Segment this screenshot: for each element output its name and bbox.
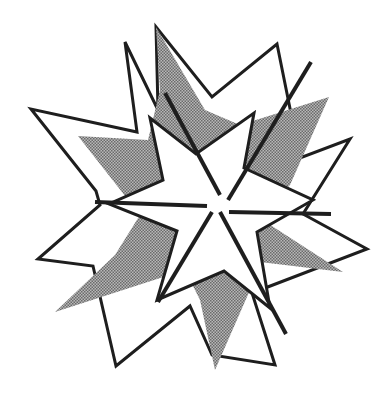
starburst-figure: [0, 0, 391, 398]
starburst-svg: [0, 0, 391, 398]
ray-line: [229, 212, 331, 214]
